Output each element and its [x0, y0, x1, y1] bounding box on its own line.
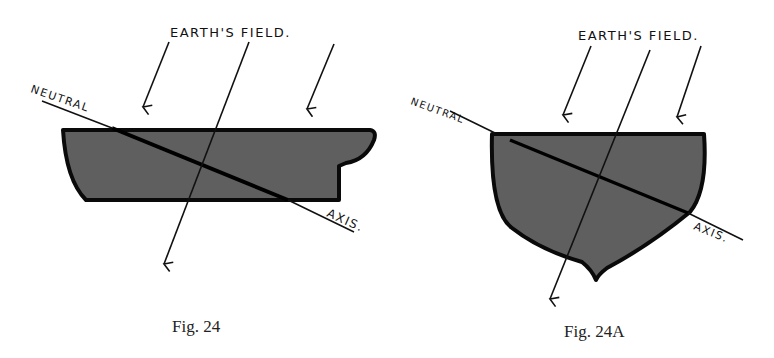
label-earths-field-fig24: EARTH'S FIELD.	[170, 25, 291, 40]
diagram-canvas: EARTH'S FIELD. NEUTRAL AXIS. Fig. 24 EAR…	[0, 0, 774, 358]
field-arrow-right-fig24	[307, 44, 334, 109]
label-neutral-fig24a: NEUTRAL	[409, 96, 466, 126]
field-arrow-right-fig24a	[677, 46, 701, 117]
label-axis-fig24: AXIS.	[325, 206, 366, 235]
magnet-body-fig24	[63, 130, 375, 200]
label-earths-field-fig24a: EARTH'S FIELD.	[578, 28, 699, 43]
caption-fig24a: Fig. 24A	[564, 322, 625, 341]
figure-24: EARTH'S FIELD. NEUTRAL AXIS. Fig. 24	[29, 25, 375, 336]
figure-24a: EARTH'S FIELD. NEUTRAL AXIS. Fig. 24A	[409, 28, 743, 341]
label-neutral-fig24: NEUTRAL	[29, 83, 91, 115]
field-arrow-left-fig24a	[563, 46, 591, 115]
caption-fig24: Fig. 24	[172, 317, 221, 336]
field-arrow-left-fig24	[143, 42, 169, 107]
